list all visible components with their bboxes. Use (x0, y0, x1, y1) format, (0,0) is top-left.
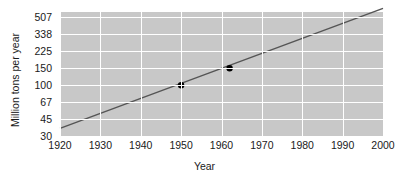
y-tick-label: 150 (34, 63, 52, 74)
gridline-vertical (181, 12, 182, 136)
gridline-vertical (100, 12, 101, 136)
x-tick-label: 1970 (250, 140, 273, 151)
y-tick-label: 100 (34, 80, 52, 91)
x-tick-label: 1930 (89, 140, 112, 151)
gridline-vertical (60, 12, 61, 136)
gridline-vertical (343, 12, 344, 136)
plot-area (60, 12, 383, 136)
gridline-horizontal (60, 136, 383, 137)
x-axis-tick-labels: 192019301940195019601970198019902000 (60, 140, 383, 154)
x-tick-label: 2000 (371, 140, 394, 151)
gridline-vertical (262, 12, 263, 136)
y-tick-label: 338 (34, 29, 52, 40)
gridline-vertical (302, 12, 303, 136)
x-tick-label: 1960 (210, 140, 233, 151)
y-tick-label: 45 (40, 114, 52, 125)
x-tick-label: 1990 (331, 140, 354, 151)
x-tick-label: 1940 (129, 140, 152, 151)
gridline-vertical (222, 12, 223, 136)
gridline-vertical (383, 12, 384, 136)
x-tick-label: 1920 (48, 140, 71, 151)
x-tick-label: 1950 (169, 140, 192, 151)
y-tick-label: 67 (40, 97, 52, 108)
x-axis-title: Year (0, 160, 409, 172)
y-tick-label: 225 (34, 46, 52, 57)
chart-figure: Million tons per year 304567100150225338… (0, 0, 409, 182)
y-tick-label: 507 (34, 12, 52, 23)
x-tick-label: 1980 (291, 140, 314, 151)
y-axis-tick-labels: 304567100150225338507 (0, 12, 56, 136)
gridline-vertical (141, 12, 142, 136)
